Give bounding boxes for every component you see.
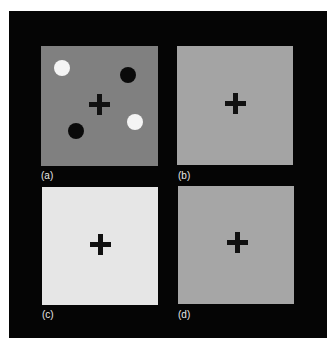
panel-d: [178, 186, 294, 304]
white-dot-icon: [127, 114, 143, 130]
panel-a: [41, 46, 158, 166]
fixation-cross-icon: [227, 232, 248, 253]
white-dot-icon: [54, 60, 70, 76]
panel-b: [177, 46, 293, 165]
fixation-cross-icon: [90, 234, 111, 255]
fixation-cross-icon: [89, 94, 110, 115]
panel-a-label: (a): [41, 171, 53, 181]
panel-c-label: (c): [42, 310, 54, 320]
panel-d-label: (d): [178, 310, 190, 320]
panel-b-label: (b): [178, 171, 190, 181]
black-dot-icon: [68, 123, 84, 139]
panel-c: [42, 187, 158, 305]
black-dot-icon: [120, 67, 136, 83]
fixation-cross-icon: [225, 93, 246, 114]
